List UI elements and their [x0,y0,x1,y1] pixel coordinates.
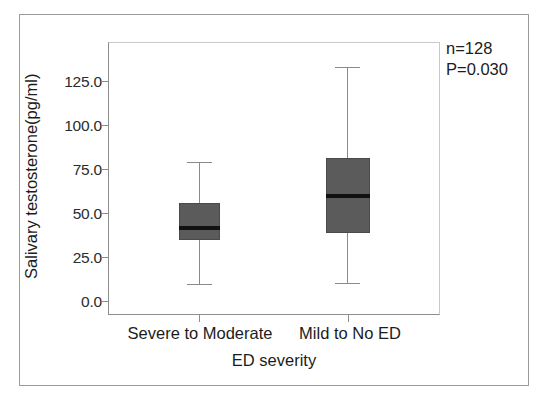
lower-whisker-cap-1 [187,284,212,285]
box-rect-1 [179,203,220,240]
y-tick-label-25: 25.0 [73,250,102,266]
x-axis-title: ED severity [108,352,440,369]
upper-whisker-cap-1 [187,162,212,163]
y-axis-title: Salivary testosterone(pg/ml) [23,61,40,291]
plot-area [108,42,440,315]
y-tick-mark-100 [101,125,108,126]
annotation-p-value: P=0.030 [446,59,508,80]
upper-whisker-cap-2 [335,67,360,68]
upper-whisker-line-2 [347,67,348,158]
y-tick-mark-25 [101,257,108,258]
median-line-1 [179,226,220,230]
upper-whisker-line-1 [199,162,200,203]
y-tick-mark-50 [101,213,108,214]
x-tick-mark-severe-to-moderate [199,315,200,322]
y-tick-mark-0 [101,301,108,302]
y-tick-mark-125 [101,81,108,82]
y-tick-label-100: 100.0 [64,118,102,134]
x-tick-mark-mild-to-no-ed [348,315,349,322]
lower-whisker-line-1 [199,240,200,284]
annotation-sample-size: n=128 [446,38,508,59]
y-tick-mark-75 [101,169,108,170]
figure-box-plot: 125.0 100.0 75.0 50.0 25.0 0.0 Salivary … [0,0,541,402]
median-line-2 [326,194,370,198]
y-tick-label-50: 50.0 [73,206,102,222]
y-tick-label-125: 125.0 [64,74,102,90]
y-axis-tick-label-group: 125.0 100.0 75.0 50.0 25.0 0.0 [36,0,102,402]
x-tick-label-severe-to-moderate: Severe to Moderate [106,325,294,342]
x-tick-label-mild-to-no-ed: Mild to No ED [288,325,412,342]
y-tick-label-75: 75.0 [73,162,102,178]
statistics-annotation-block: n=128 P=0.030 [446,38,508,80]
lower-whisker-cap-2 [335,283,360,284]
y-tick-label-0: 0.0 [81,294,102,310]
lower-whisker-line-2 [347,233,348,283]
